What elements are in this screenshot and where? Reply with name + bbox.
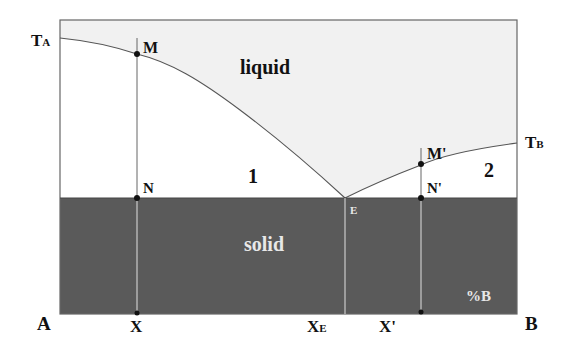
point-mprime-marker <box>418 161 424 167</box>
label-tb-main: T <box>525 133 536 152</box>
liquid-region <box>60 20 517 198</box>
point-x-marker <box>135 311 140 316</box>
label-m: M <box>143 40 158 56</box>
label-nprime: N' <box>427 181 442 196</box>
label-tb: TB <box>525 134 544 151</box>
label-tb-sub: B <box>536 138 543 150</box>
label-ta-main: T <box>31 31 42 50</box>
point-n-marker <box>134 195 140 201</box>
label-a: A <box>37 314 51 333</box>
label-ta-sub: A <box>42 36 50 48</box>
label-liquid-region: liquid <box>240 57 290 77</box>
label-ta: TA <box>31 32 50 49</box>
label-region-2: 2 <box>484 160 494 180</box>
point-nprime-marker <box>418 195 424 201</box>
point-m-marker <box>134 51 140 57</box>
label-solid-region: solid <box>244 234 284 254</box>
label-xe: XE <box>307 318 327 335</box>
solid-region <box>60 198 517 314</box>
label-b: B <box>525 314 538 333</box>
point-xprime-marker <box>419 310 424 315</box>
label-n: N <box>143 181 154 196</box>
label-xprime: X' <box>379 318 396 335</box>
label-xe-main: X <box>307 317 319 336</box>
label-xe-sub: E <box>319 322 326 334</box>
label-percent-b: %B <box>466 289 491 304</box>
label-mprime: M' <box>427 146 447 162</box>
label-e: E <box>350 205 357 216</box>
label-region-1: 1 <box>248 166 258 186</box>
label-x: X <box>130 318 142 335</box>
